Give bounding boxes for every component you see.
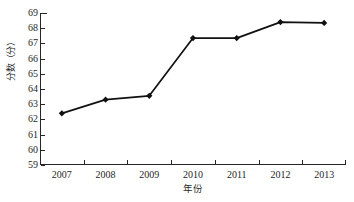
y-tick-label: 60 bbox=[18, 145, 38, 155]
y-tick-mark bbox=[41, 74, 45, 75]
plot-area bbox=[40, 13, 346, 165]
y-tick-label: 69 bbox=[18, 8, 38, 18]
y-tick-mark bbox=[41, 165, 45, 166]
data-point-marker bbox=[277, 19, 283, 25]
y-axis-tick-labels: 5960616263646566676869 bbox=[18, 0, 38, 202]
data-point-marker bbox=[102, 97, 108, 103]
x-tick-mark bbox=[84, 160, 85, 164]
y-tick-mark bbox=[41, 59, 45, 60]
y-tick-mark bbox=[41, 89, 45, 90]
x-tick-label: 2011 bbox=[217, 169, 257, 181]
x-axis-tick-labels: 2007200820092010201120122013 bbox=[40, 169, 346, 182]
y-tick-mark bbox=[41, 150, 45, 151]
y-tick-label: 65 bbox=[18, 69, 38, 79]
y-tick-mark bbox=[41, 28, 45, 29]
x-tick-label: 2010 bbox=[173, 169, 213, 181]
x-tick-mark bbox=[171, 160, 172, 164]
x-tick-mark bbox=[302, 160, 303, 164]
y-axis-title: 分数（分） bbox=[4, 23, 18, 95]
y-tick-mark bbox=[41, 104, 45, 105]
data-series-line bbox=[40, 13, 346, 165]
x-axis-title: 年份 bbox=[40, 183, 346, 195]
x-tick-label: 2008 bbox=[86, 169, 126, 181]
y-tick-label: 61 bbox=[18, 130, 38, 140]
y-tick-label: 68 bbox=[18, 23, 38, 33]
data-point-marker bbox=[321, 20, 327, 26]
x-tick-mark bbox=[127, 160, 128, 164]
y-tick-label: 62 bbox=[18, 114, 38, 124]
x-tick-label: 2012 bbox=[260, 169, 300, 181]
y-tick-mark bbox=[41, 13, 45, 14]
y-tick-label: 67 bbox=[18, 38, 38, 48]
chart-figure: 分数（分） 5960616263646566676869 20072008200… bbox=[0, 0, 354, 202]
data-point-marker bbox=[234, 35, 240, 41]
x-tick-label: 2007 bbox=[42, 169, 82, 181]
y-tick-mark bbox=[41, 119, 45, 120]
y-tick-mark bbox=[41, 135, 45, 136]
y-tick-label: 64 bbox=[18, 84, 38, 94]
x-tick-mark bbox=[259, 160, 260, 164]
x-tick-label: 2009 bbox=[129, 169, 169, 181]
y-tick-label: 59 bbox=[18, 160, 38, 170]
x-tick-mark bbox=[215, 160, 216, 164]
data-point-marker bbox=[59, 110, 65, 116]
x-tick-label: 2013 bbox=[304, 169, 344, 181]
y-tick-label: 66 bbox=[18, 54, 38, 64]
y-tick-label: 63 bbox=[18, 99, 38, 109]
y-tick-mark bbox=[41, 43, 45, 44]
